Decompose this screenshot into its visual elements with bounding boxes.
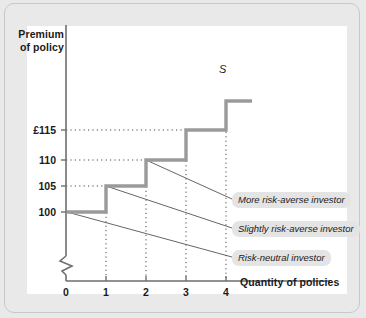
annotation-risk-neutral: Risk-neutral investor [232,250,331,266]
annotation-slightly-risk-averse: Slightly risk-averse investor [232,221,360,237]
horizontal-guide-lines [66,130,187,186]
x-tick-label-4: 4 [217,286,235,298]
y-axis-title-line-2: of policy [12,41,64,54]
leader-line-slightly-risk-averse [106,186,232,228]
vertical-guide-lines [106,101,226,278]
leader-line-risk-neutral [67,212,232,257]
y-axis-title: Premium of policy [12,28,64,53]
annotation-leader-lines [67,160,232,257]
y-tick-label-115: £115 [20,124,56,136]
supply-curve-label: S [219,63,226,75]
annotation-more-risk-averse: More risk-averse investor [232,192,351,208]
x-tick-label-3: 3 [177,286,195,298]
x-tick-label-1: 1 [97,286,115,298]
y-tick-label-105: 105 [20,180,56,192]
x-tick-label-0: 0 [57,286,75,298]
y-axis-break-icon [60,256,72,275]
x-tick-label-2: 2 [137,286,155,298]
y-tick-label-100: 100 [20,206,56,218]
x-axis-title: Quantity of policies [240,276,339,289]
y-tick-label-110: 110 [20,154,56,166]
y-axis-title-line-1: Premium [12,28,64,41]
axes [60,25,330,281]
chart-area: Premium of policy Quantity of policies £… [0,0,366,318]
leader-line-more-risk-averse [146,160,232,199]
